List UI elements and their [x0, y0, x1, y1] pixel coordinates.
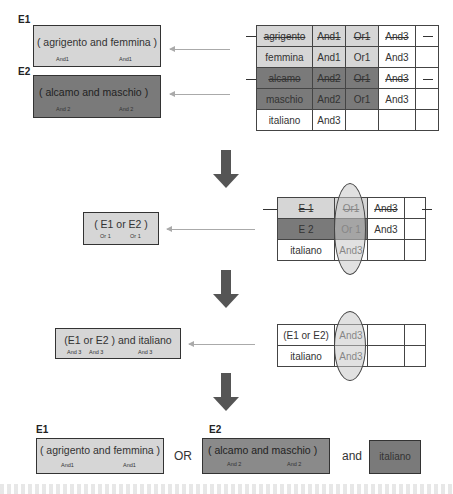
strike-line — [422, 209, 432, 210]
table-row: maschio And2 Or1 And3 — [257, 89, 439, 110]
e1-label: E1 — [18, 14, 30, 25]
down-arrow-icon — [213, 270, 239, 310]
result-e2-label: E2 — [209, 424, 221, 435]
e1-or-e2-box: ( E1 or E2 ) Or 1 Or 1 — [83, 212, 159, 245]
or-sub-1: Or 1 — [100, 233, 111, 239]
and-sub-2: And 3 — [89, 349, 103, 355]
down-arrow-icon — [213, 150, 239, 190]
highlight-ellipse — [334, 183, 366, 275]
arrow-left-icon — [170, 94, 230, 95]
result-e2-sub-1: And 2 — [227, 461, 241, 467]
result-e1-label: E1 — [36, 424, 48, 435]
result-e2-expression: ( alcamo and maschio ) — [208, 444, 329, 456]
table-row: italiano And3 — [257, 110, 439, 131]
table-row: agrigento And1 Or1 And3 — [257, 26, 439, 47]
result-e1-expression: ( agrigento and femmina ) — [37, 444, 163, 456]
table-row: alcamo And2 Or1 And3 — [257, 68, 439, 89]
e1-expression: ( agrigento and femmina ) — [34, 36, 160, 48]
e1-sub-1: And1 — [56, 56, 69, 62]
highlight-ellipse — [334, 311, 366, 381]
and-sub-3: And 3 — [138, 349, 152, 355]
arrow-left-icon — [170, 49, 230, 50]
strike-line — [246, 79, 256, 80]
arrow-left-icon — [189, 344, 255, 345]
caption-cutoff — [0, 484, 453, 494]
arrow-left-icon — [167, 229, 255, 230]
strike-line — [263, 209, 277, 210]
e2-sub-1: And 2 — [56, 106, 70, 112]
e2-expression: ( alcamo and maschio ) — [39, 86, 160, 98]
or-sub-2: Or 1 — [130, 233, 141, 239]
result-e1-sub-1: And1 — [61, 462, 74, 468]
italiano-box: italiano — [369, 440, 421, 474]
and-sub-1: And 3 — [67, 349, 81, 355]
result-e1-sub-2: And1 — [123, 462, 136, 468]
strike-line — [423, 79, 433, 80]
strike-line — [423, 36, 433, 37]
and-italiano-box: (E1 or E2 ) and italiano And 3 And 3 And… — [55, 328, 181, 359]
and-operator: and — [342, 449, 362, 463]
or-expression: ( E1 or E2 ) — [84, 218, 158, 230]
e2-sub-2: And 2 — [119, 106, 133, 112]
result-e1-box: ( agrigento and femmina ) And1 And1 — [36, 438, 164, 474]
e2-box: ( alcamo and maschio ) And 2 And 2 — [33, 75, 161, 118]
e1-sub-2: And1 — [119, 56, 132, 62]
result-e2-sub-2: And 2 — [287, 461, 301, 467]
and-expression: (E1 or E2 ) and italiano — [56, 334, 180, 346]
or-operator: OR — [174, 449, 192, 463]
table-step1: agrigento And1 Or1 And3 femmina And1 Or1… — [256, 25, 439, 131]
e1-box: ( agrigento and femmina ) And1 And1 — [33, 25, 161, 67]
result-e2-box: ( alcamo and maschio ) And 2 And 2 — [202, 438, 330, 474]
strike-line — [246, 36, 256, 37]
table-row: femmina And1 Or1 And3 — [257, 47, 439, 68]
down-arrow-icon — [213, 373, 239, 413]
italiano-text: italiano — [370, 451, 420, 462]
e2-label: E2 — [18, 66, 30, 77]
